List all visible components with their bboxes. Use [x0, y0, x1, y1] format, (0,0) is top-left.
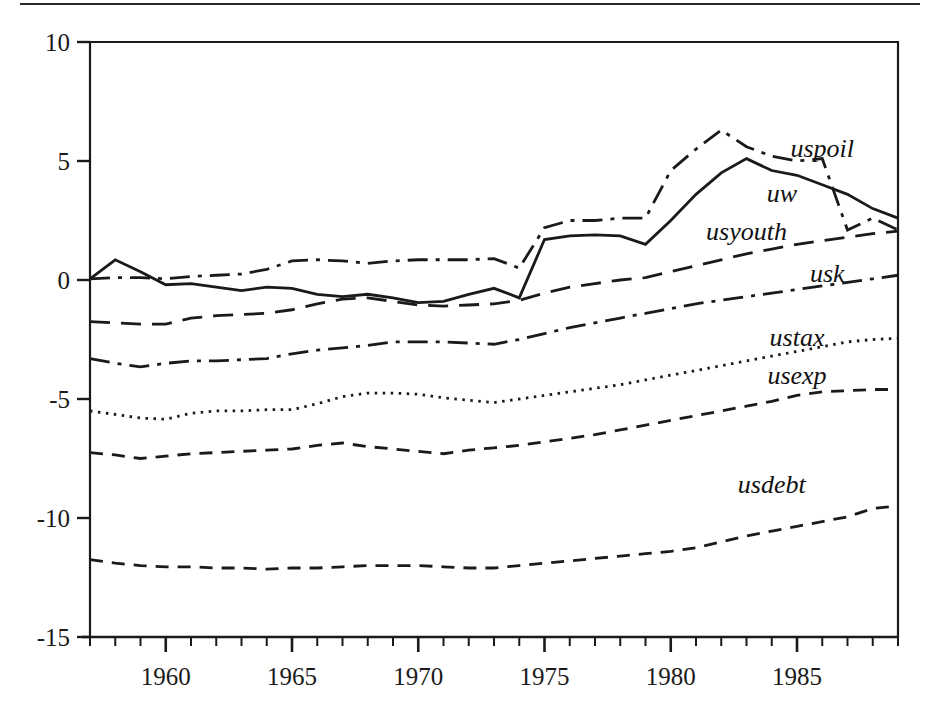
figure-container: 1050-5-10-15 196019651970197519801985 uw…: [0, 0, 929, 725]
x-tick-label: 1960: [141, 663, 191, 690]
y-tick-label: 10: [45, 29, 70, 56]
series-label-usdebt: usdebt: [738, 470, 807, 499]
y-tick-label: -10: [37, 505, 70, 532]
series-label-usyouth: usyouth: [706, 217, 787, 246]
series-line-usexp: [90, 389, 898, 458]
series-label-ustax: ustax: [770, 323, 825, 352]
x-tick-label: 1985: [772, 663, 822, 690]
y-tick-label: -5: [49, 386, 70, 413]
series-label-usexp: usexp: [767, 361, 826, 390]
series-label-usk: usk: [810, 259, 845, 288]
x-axis-ticks: 196019651970197519801985: [90, 637, 898, 690]
y-tick-label: 5: [58, 148, 71, 175]
x-tick-label: 1965: [267, 663, 317, 690]
x-tick-label: 1980: [646, 663, 696, 690]
series-label-uw: uw: [767, 179, 798, 208]
series-line-usdebt: [90, 506, 898, 569]
y-axis-ticks: 1050-5-10-15: [37, 29, 90, 651]
y-tick-label: -15: [37, 624, 70, 651]
series-label-uspoil: uspoil: [790, 134, 854, 163]
x-tick-label: 1975: [520, 663, 570, 690]
x-tick-label: 1970: [393, 663, 443, 690]
y-tick-label: 0: [58, 267, 71, 294]
line-chart: 1050-5-10-15 196019651970197519801985 uw…: [0, 0, 929, 725]
